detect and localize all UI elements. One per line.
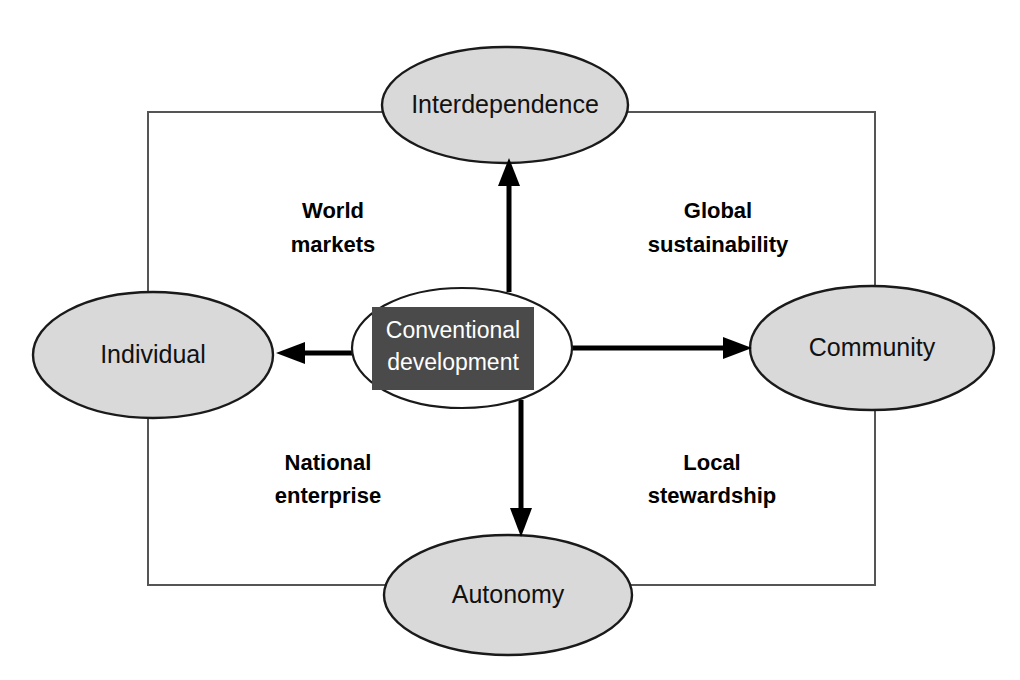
- quadrant-local-stewardship-line2: stewardship: [648, 483, 776, 508]
- diagram-canvas: Interdependence Individual Community Aut…: [0, 0, 1020, 680]
- node-conventional-development[interactable]: Conventional development: [352, 288, 572, 408]
- arrow-right: [568, 337, 752, 359]
- center-label-line2: development: [387, 349, 519, 375]
- quadrant-world-markets-line1: World: [302, 198, 364, 223]
- arrow-down: [510, 400, 532, 537]
- quadrant-national-enterprise: National enterprise: [275, 450, 381, 508]
- scenario-axes-diagram: Interdependence Individual Community Aut…: [0, 0, 1020, 680]
- quadrant-world-markets: World markets: [291, 198, 375, 257]
- node-interdependence-label: Interdependence: [411, 90, 599, 118]
- arrow-right-head: [723, 337, 752, 359]
- quadrant-world-markets-line2: markets: [291, 232, 375, 257]
- arrow-down-head: [510, 508, 532, 537]
- node-individual[interactable]: Individual: [33, 292, 273, 418]
- node-community-label: Community: [809, 333, 936, 361]
- arrow-left-head: [276, 342, 305, 364]
- quadrant-global-sustainability-line2: sustainability: [648, 232, 789, 257]
- center-label-line1: Conventional: [386, 317, 520, 343]
- quadrant-local-stewardship-line1: Local: [683, 450, 740, 475]
- quadrant-global-sustainability-line1: Global: [684, 198, 752, 223]
- quadrant-global-sustainability: Global sustainability: [648, 198, 789, 257]
- node-autonomy-label: Autonomy: [452, 580, 565, 608]
- arrow-up: [498, 158, 520, 292]
- node-autonomy[interactable]: Autonomy: [384, 535, 632, 655]
- arrow-left: [276, 342, 360, 364]
- node-community[interactable]: Community: [750, 286, 994, 410]
- quadrant-national-enterprise-line1: National: [285, 450, 372, 475]
- node-interdependence[interactable]: Interdependence: [382, 47, 628, 163]
- quadrant-local-stewardship: Local stewardship: [648, 450, 776, 508]
- quadrant-national-enterprise-line2: enterprise: [275, 483, 381, 508]
- node-individual-label: Individual: [100, 340, 206, 368]
